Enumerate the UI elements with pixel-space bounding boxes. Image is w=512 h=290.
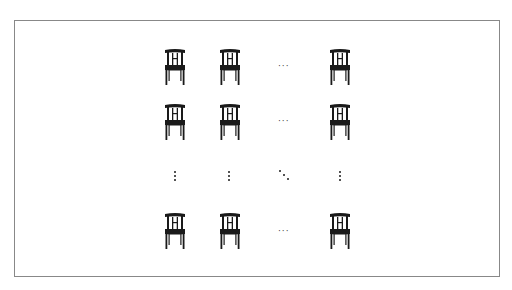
diagonal-ellipsis	[279, 170, 291, 182]
chair-icon	[329, 212, 351, 250]
horizontal-ellipsis: ···	[278, 62, 290, 71]
chair-icon	[219, 103, 241, 141]
horizontal-ellipsis: ···	[278, 117, 290, 126]
chair-icon	[329, 103, 351, 141]
chair-icon	[219, 48, 241, 86]
chair-icon	[164, 103, 186, 141]
vertical-ellipsis	[228, 171, 230, 183]
chair-icon	[329, 48, 351, 86]
diagram-frame	[14, 20, 500, 277]
chair-icon	[164, 48, 186, 86]
horizontal-ellipsis: ···	[278, 227, 290, 236]
chair-icon	[219, 212, 241, 250]
vertical-ellipsis	[174, 171, 176, 183]
vertical-ellipsis	[339, 171, 341, 183]
chair-icon	[164, 212, 186, 250]
